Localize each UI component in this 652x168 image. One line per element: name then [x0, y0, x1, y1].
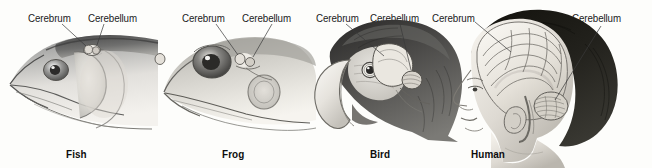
- human-caption: Human: [471, 148, 505, 160]
- fish-caption: Fish: [66, 148, 87, 160]
- bird-caption: Bird: [370, 148, 390, 160]
- panel-human: Cerebrum Cerebellum: [425, 0, 652, 168]
- fish-head-illustration: [0, 0, 160, 168]
- frog-head-illustration: [160, 0, 320, 168]
- comparative-brain-anatomy-figure: Cerebrum Cerebellum: [0, 0, 652, 168]
- panel-frog: Cerebrum Cerebellum: [160, 0, 320, 168]
- frog-caption: Frog: [222, 148, 244, 160]
- panel-fish: Cerebrum Cerebellum: [0, 0, 160, 168]
- human-head-illustration: [425, 0, 652, 168]
